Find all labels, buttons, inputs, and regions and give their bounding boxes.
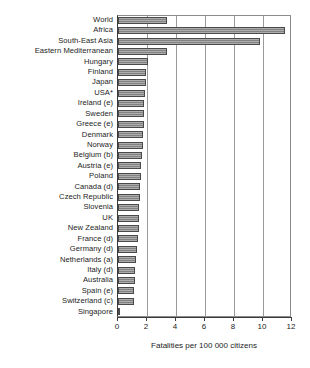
bar-row <box>118 140 291 150</box>
bar-row <box>118 213 291 223</box>
bar <box>118 173 141 180</box>
category-label: Singapore <box>0 307 113 317</box>
bar <box>118 90 145 97</box>
x-tick <box>262 317 263 321</box>
bar-row <box>118 182 291 192</box>
category-label: Norway <box>0 140 113 150</box>
x-tick-label: 10 <box>252 322 272 331</box>
bar <box>118 100 144 107</box>
x-tick <box>233 317 234 321</box>
bar <box>118 256 136 263</box>
bar <box>118 183 140 190</box>
bar <box>118 235 138 242</box>
bar <box>118 215 139 222</box>
category-label: Switzerland (c) <box>0 296 113 306</box>
bar <box>118 17 167 24</box>
bar-row <box>118 244 291 254</box>
bar-row <box>118 130 291 140</box>
bar-row <box>118 46 291 56</box>
bar-row <box>118 307 291 317</box>
bar-row <box>118 234 291 244</box>
bar <box>118 48 167 55</box>
bar <box>118 38 260 45</box>
bar <box>118 27 285 34</box>
bar <box>118 194 140 201</box>
bar-row <box>118 150 291 160</box>
bar <box>118 79 146 86</box>
bar <box>118 298 134 305</box>
category-label: Japan <box>0 77 113 87</box>
category-label: Hungary <box>0 57 113 67</box>
category-label: Denmark <box>0 130 113 140</box>
bar-row <box>118 255 291 265</box>
bar-row <box>118 286 291 296</box>
bar <box>118 204 139 211</box>
bar <box>118 287 134 294</box>
x-axis-title: Fatalities per 100 000 citizens <box>117 341 291 350</box>
category-label: Australia <box>0 275 113 285</box>
bar <box>118 142 143 149</box>
bar-row <box>118 67 291 77</box>
bar-row <box>118 57 291 67</box>
bar-row <box>118 36 291 46</box>
bar-row <box>118 296 291 306</box>
bar-row <box>118 275 291 285</box>
bar-row <box>118 161 291 171</box>
category-label: Greece (e) <box>0 119 113 129</box>
x-tick <box>291 317 292 321</box>
bar <box>118 110 144 117</box>
category-label: Sweden <box>0 109 113 119</box>
category-label: Canada (d) <box>0 182 113 192</box>
category-label: Germany (d) <box>0 244 113 254</box>
x-tick-label: 0 <box>107 322 127 331</box>
bar-row <box>118 98 291 108</box>
bar-row <box>118 25 291 35</box>
bar-row <box>118 192 291 202</box>
bar <box>118 131 143 138</box>
x-tick-label: 8 <box>223 322 243 331</box>
category-label: Finland <box>0 67 113 77</box>
bar <box>118 246 137 253</box>
bar-row <box>118 77 291 87</box>
bar <box>118 121 144 128</box>
bar-row <box>118 265 291 275</box>
category-label: UK <box>0 213 113 223</box>
category-label: Slovenia <box>0 202 113 212</box>
category-label: Ireland (e) <box>0 98 113 108</box>
bar-series <box>118 15 291 317</box>
category-label: Spain (e) <box>0 286 113 296</box>
category-axis-labels: WorldAfricaSouth-East AsiaEastern Medite… <box>0 15 113 317</box>
bar-row <box>118 171 291 181</box>
bar <box>118 225 139 232</box>
x-tick-label: 2 <box>136 322 156 331</box>
category-label: USA* <box>0 88 113 98</box>
plot-area <box>117 15 291 317</box>
bar <box>118 152 142 159</box>
bar <box>118 162 141 169</box>
bar <box>118 277 135 284</box>
category-label: Eastern Mediterranean <box>0 46 113 56</box>
bar <box>118 308 120 315</box>
category-label: Czech Republic <box>0 192 113 202</box>
bar-row <box>118 109 291 119</box>
x-tick-label: 4 <box>165 322 185 331</box>
x-tick <box>146 317 147 321</box>
category-label: Poland <box>0 171 113 181</box>
category-label: Netherlands (a) <box>0 255 113 265</box>
x-tick <box>175 317 176 321</box>
bar-row <box>118 202 291 212</box>
x-tick <box>204 317 205 321</box>
bar-row <box>118 88 291 98</box>
category-label: Africa <box>0 25 113 35</box>
category-label: Italy (d) <box>0 265 113 275</box>
category-label: Austria (e) <box>0 161 113 171</box>
category-label: World <box>0 15 113 25</box>
x-tick-label: 12 <box>281 322 301 331</box>
category-label: Belgium (b) <box>0 150 113 160</box>
bar-chart: WorldAfricaSouth-East AsiaEastern Medite… <box>0 0 310 368</box>
bar <box>118 267 135 274</box>
category-label: South-East Asia <box>0 36 113 46</box>
category-label: France (d) <box>0 234 113 244</box>
bar-row <box>118 119 291 129</box>
x-tick-label: 6 <box>194 322 214 331</box>
